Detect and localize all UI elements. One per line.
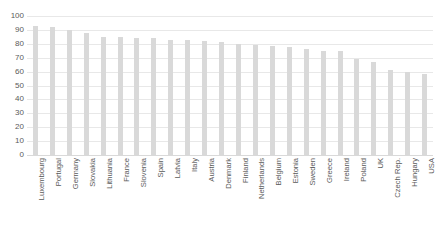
bar-cell — [112, 16, 129, 155]
bar — [270, 46, 275, 155]
bar-cell — [399, 16, 416, 155]
x-label-cell: Ireland — [332, 158, 349, 222]
bar-cell — [382, 16, 399, 155]
y-axis-tick-20: 20 — [0, 123, 24, 131]
y-axis-tick-60: 60 — [0, 68, 24, 76]
y-axis-labels: 1009080706050403020100 — [0, 16, 24, 155]
bar-cell — [264, 16, 281, 155]
bar — [371, 62, 376, 155]
bar-cell — [196, 16, 213, 155]
x-label-cell: Slovenia — [129, 158, 146, 222]
bar — [354, 59, 359, 155]
bar — [185, 40, 190, 155]
bar-cell — [213, 16, 230, 155]
x-label-cell: Spain — [145, 158, 162, 222]
bar — [405, 72, 410, 155]
x-label-cell: Portugal — [44, 158, 61, 222]
bar-cell — [298, 16, 315, 155]
x-label-cell: Netherlands — [247, 158, 264, 222]
y-axis-tick-100: 100 — [0, 12, 24, 20]
y-axis-tick-70: 70 — [0, 54, 24, 62]
bar-cell — [247, 16, 264, 155]
y-axis-tick-30: 30 — [0, 109, 24, 117]
bar-cell — [44, 16, 61, 155]
x-label-cell: Greece — [315, 158, 332, 222]
bar — [67, 30, 72, 155]
bar-cell — [27, 16, 44, 155]
x-label-cell: Belgium — [264, 158, 281, 222]
bar-cell — [179, 16, 196, 155]
bar — [321, 51, 326, 155]
bar-cell — [281, 16, 298, 155]
y-axis-tick-40: 40 — [0, 95, 24, 103]
bar — [168, 40, 173, 155]
y-axis-tick-10: 10 — [0, 137, 24, 145]
y-axis-tick-80: 80 — [0, 40, 24, 48]
bar — [33, 26, 38, 155]
bar-cell — [365, 16, 382, 155]
bar-cell — [416, 16, 433, 155]
bar — [236, 44, 241, 155]
x-label-cell: Finland — [230, 158, 247, 222]
bar — [84, 33, 89, 155]
gridline-0 — [27, 155, 433, 156]
bar — [338, 51, 343, 155]
x-label-cell: USA — [416, 158, 433, 222]
bar — [388, 70, 393, 155]
x-label-cell: Hungary — [399, 158, 416, 222]
bar-cell — [332, 16, 349, 155]
x-axis-labels: LuxembourgPortugalGermanySlovakiaLithuan… — [27, 158, 433, 222]
bar — [253, 45, 258, 156]
x-label-cell: Latvia — [162, 158, 179, 222]
bar — [422, 74, 427, 155]
chart-title — [0, 0, 439, 4]
bar-cell — [78, 16, 95, 155]
bar — [219, 42, 224, 155]
bar-cell — [95, 16, 112, 155]
bar — [304, 49, 309, 155]
x-label-cell: Denmark — [213, 158, 230, 222]
bar-cell — [145, 16, 162, 155]
bar-cell — [129, 16, 146, 155]
x-label-cell: Germany — [61, 158, 78, 222]
bar — [202, 41, 207, 155]
bar — [151, 38, 156, 155]
bar-cell — [230, 16, 247, 155]
x-label-cell: Slovakia — [78, 158, 95, 222]
bar-cell — [315, 16, 332, 155]
y-axis-tick-0: 0 — [0, 151, 24, 159]
x-label-cell: Italy — [179, 158, 196, 222]
bar — [50, 27, 55, 155]
x-label-cell: UK — [365, 158, 382, 222]
bar — [134, 38, 139, 155]
x-label-cell: Sweden — [298, 158, 315, 222]
x-label-cell: Luxembourg — [27, 158, 44, 222]
y-axis-tick-50: 50 — [0, 82, 24, 90]
bar-cell — [61, 16, 78, 155]
y-axis-tick-90: 90 — [0, 26, 24, 34]
x-label-cell: Lithuania — [95, 158, 112, 222]
bar — [118, 37, 123, 155]
x-label-cell: Austria — [196, 158, 213, 222]
x-label-cell: Estonia — [281, 158, 298, 222]
bar-chart: 1009080706050403020100 LuxembourgPortuga… — [0, 0, 439, 225]
x-label-cell: Poland — [349, 158, 366, 222]
x-label-cell: France — [112, 158, 129, 222]
x-label-cell: Czech Rep. — [382, 158, 399, 222]
bar — [101, 37, 106, 155]
x-axis-tick-label: USA — [428, 158, 436, 174]
bar-cell — [162, 16, 179, 155]
plot-area — [27, 16, 433, 155]
bar-cell — [349, 16, 366, 155]
bar-series — [27, 16, 433, 155]
bar — [287, 47, 292, 155]
